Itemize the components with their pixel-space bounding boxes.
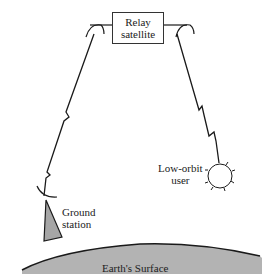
relay-satellite-box: Relay satellite [112, 12, 164, 44]
low-orbit-user-label: Low-orbit user [158, 162, 203, 186]
satellite-dish-right-icon [176, 25, 194, 37]
ground-station-icon [44, 200, 62, 241]
ground-station-label-line2: station [62, 218, 96, 230]
satellite-label-line2: satellite [121, 28, 155, 40]
low-orbit-user-label-line1: Low-orbit [158, 162, 203, 174]
link-satellite-user [177, 34, 219, 163]
earth-surface-label: Earth's Surface [102, 262, 168, 274]
satellite-label-line1: Relay [125, 16, 151, 28]
link-satellite-ground [44, 34, 94, 196]
ground-station-label-line1: Ground [62, 206, 96, 218]
low-orbit-user-icon [205, 162, 235, 191]
ground-station-dish-icon [37, 186, 57, 197]
ground-station-label: Ground station [62, 206, 96, 230]
low-orbit-user-label-line2: user [158, 174, 203, 186]
satellite-dish-left-icon [86, 25, 104, 37]
